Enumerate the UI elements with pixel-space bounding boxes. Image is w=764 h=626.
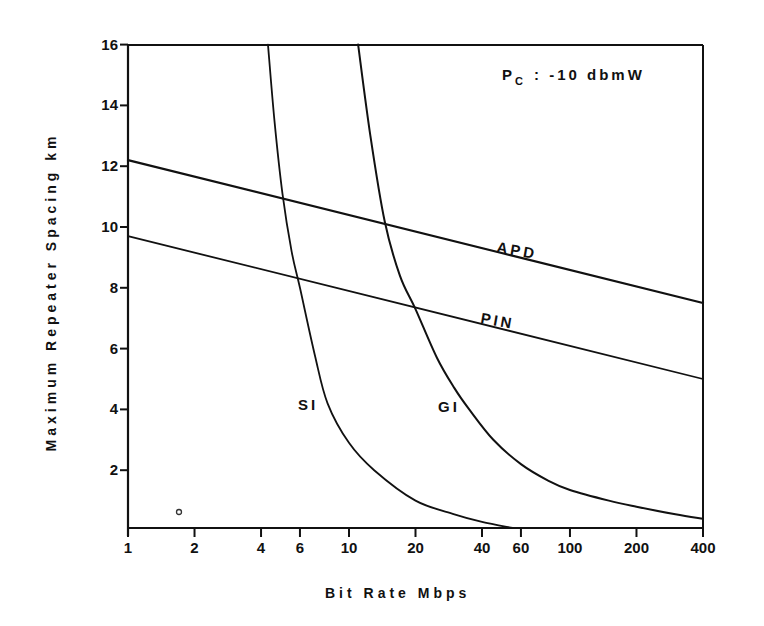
x-tick-label: 1 (124, 539, 132, 556)
y-tick-label: 10 (101, 218, 118, 235)
y-tick-label: 16 (101, 36, 118, 53)
power-annotation: PC: -10 dbmW (502, 66, 645, 87)
y-tick-label: 8 (110, 279, 118, 296)
x-tick-label: 10 (341, 539, 358, 556)
series-labels: APDPINSIGI (298, 238, 538, 415)
x-tick-label: 60 (513, 539, 530, 556)
x-tick-label: 4 (257, 539, 266, 556)
x-axis-ticks: 124610204060100200400 (124, 528, 716, 556)
plot-frame (128, 45, 703, 536)
series-line-si (268, 45, 513, 528)
y-tick-label: 12 (101, 157, 118, 174)
x-tick-label: 200 (624, 539, 649, 556)
repeater-spacing-chart: 246810121416 124610204060100200400 APDPI… (0, 0, 764, 626)
x-tick-label: 2 (190, 539, 198, 556)
series-label-si: SI (298, 396, 318, 413)
stray-mark-circle (177, 510, 182, 515)
series-lines (128, 45, 703, 528)
y-tick-label: 6 (110, 340, 118, 357)
y-axis-ticks: 246810121416 (101, 36, 128, 479)
y-tick-label: 4 (110, 400, 119, 417)
x-axis-title: Bit Rate Mbps (325, 585, 470, 601)
series-line-gi (358, 45, 703, 519)
y-axis-title: Maximum Repeater Spacing km (43, 133, 59, 452)
series-label-pin: PIN (479, 309, 515, 332)
series-label-apd: APD (495, 238, 538, 262)
x-tick-label: 20 (407, 539, 424, 556)
y-tick-label: 14 (101, 96, 118, 113)
x-tick-label: 400 (690, 539, 715, 556)
x-tick-label: 100 (557, 539, 582, 556)
x-tick-label: 40 (474, 539, 491, 556)
series-label-gi: GI (438, 398, 460, 415)
y-tick-label: 2 (110, 461, 118, 478)
series-line-apd (128, 160, 703, 303)
x-tick-label: 6 (296, 539, 304, 556)
